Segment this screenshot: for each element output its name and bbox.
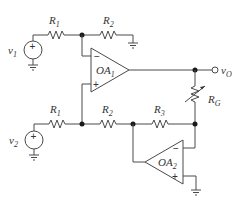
opamp-oa2: − + OA2 bbox=[145, 140, 183, 184]
wire-oa2-noninv-ground bbox=[183, 176, 196, 190]
oa2-minus-sign: − bbox=[173, 143, 179, 154]
ground-icon bbox=[29, 149, 39, 160]
vo-label: vO bbox=[221, 64, 232, 79]
variable-resistor-rg: RG bbox=[185, 86, 221, 108]
v2-label: v2 bbox=[9, 134, 18, 149]
resistor-r2-top: R2 bbox=[100, 14, 116, 39]
oa1-label: OA1 bbox=[96, 64, 115, 79]
r3-label: R3 bbox=[153, 103, 165, 118]
node-oa2-inv bbox=[193, 122, 198, 127]
opamp-oa1: − + OA1 bbox=[91, 48, 129, 92]
v1-plus-sign: + bbox=[30, 41, 36, 52]
wire-oa2-output bbox=[133, 124, 145, 162]
v2-plus-sign: + bbox=[31, 131, 37, 142]
resistor-r2-bottom: R2 bbox=[100, 103, 116, 128]
oa1-minus-sign: − bbox=[94, 51, 100, 62]
resistor-r3: R3 bbox=[152, 103, 168, 128]
r1-bottom-label: R1 bbox=[49, 103, 61, 118]
wire-oa1-inv-input bbox=[82, 35, 91, 56]
r1-top-label: R1 bbox=[48, 14, 60, 29]
rg-label: RG bbox=[207, 93, 221, 108]
v1-label: v1 bbox=[8, 44, 17, 59]
oa2-label: OA2 bbox=[158, 156, 177, 171]
wire-r2-ground bbox=[116, 35, 133, 43]
wire-oa1-noninv-input bbox=[82, 84, 91, 124]
ground-icon bbox=[191, 190, 201, 195]
circuit-diagram: + v1 R1 R2 − + OA1 vO RG + bbox=[0, 0, 244, 209]
resistor-r1-top: R1 bbox=[48, 14, 64, 39]
resistor-r1-bottom: R1 bbox=[49, 103, 65, 128]
r2-bottom-label: R2 bbox=[101, 103, 113, 118]
voltage-source-v2: + v2 bbox=[9, 131, 43, 149]
node-oa1-noninv bbox=[80, 122, 85, 127]
ground-icon bbox=[28, 59, 38, 70]
voltage-source-v1: + v1 bbox=[8, 41, 42, 59]
oa2-plus-sign: + bbox=[172, 171, 178, 182]
oa1-plus-sign: + bbox=[93, 79, 99, 90]
wire-v2-r1 bbox=[34, 124, 49, 131]
ground-icon bbox=[128, 43, 138, 48]
r2-top-label: R2 bbox=[102, 14, 114, 29]
output-terminal bbox=[212, 67, 218, 73]
